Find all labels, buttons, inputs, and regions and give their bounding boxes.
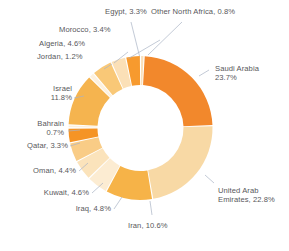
donut-slice-bahrain[interactable]	[69, 125, 98, 127]
slice-label-morocco: Morocco, 3.4%	[59, 25, 111, 34]
slice-label-israel-line1: Israel	[53, 84, 72, 93]
slice-label-israel: Israel 11.8%	[0, 84, 72, 102]
donut-slice-saudi-arabia[interactable]	[143, 56, 212, 126]
slice-label-jordan: Jordan, 1.2%	[37, 52, 83, 61]
slice-label-egypt: Egypt, 3.3%	[105, 7, 147, 16]
leader-line-iraq	[114, 197, 122, 209]
donut-slice-group	[69, 56, 213, 200]
leader-line-other-north-africa	[148, 22, 182, 55]
slice-label-bahrain-line2: 0.7%	[46, 128, 64, 137]
slice-label-israel-line2: 11.8%	[51, 93, 72, 102]
leader-line-uae	[205, 175, 214, 183]
slice-label-saudi-arabia: Saudi Arabia 23.7%	[215, 64, 259, 82]
slice-label-oman: Oman, 4.4%	[0, 166, 76, 175]
donut-slice-israel[interactable]	[69, 78, 110, 126]
leader-line-iran	[150, 201, 152, 215]
leader-line-morocco	[129, 40, 161, 59]
slice-label-other-north-africa: Other North Africa, 0.8%	[151, 7, 235, 16]
chart-container: Egypt, 3.3% Other North Africa, 0.8% Mor…	[0, 0, 289, 251]
slice-label-algeria: Algeria, 4.6%	[39, 39, 85, 48]
slice-label-bahrain: Bahrain 0.7%	[0, 119, 64, 137]
donut-slice-united-arab-emirates[interactable]	[148, 126, 212, 198]
slice-label-bahrain-line1: Bahrain	[37, 119, 64, 128]
slice-label-qatar: Qatar, 3.3%	[0, 141, 68, 150]
slice-label-iran: Iran, 10.6%	[128, 221, 168, 230]
donut-slice-other-north-africa[interactable]	[141, 56, 144, 85]
slice-label-uae-line2: Emirates, 22.8%	[218, 195, 275, 204]
slice-label-saudi-line1: Saudi Arabia	[215, 64, 259, 73]
slice-label-uae: United Arab Emirates, 22.8%	[218, 186, 275, 204]
slice-label-uae-line1: United Arab	[218, 186, 259, 195]
slice-label-kuwait: Kuwait, 4.6%	[0, 188, 89, 197]
leader-line-egypt	[131, 22, 140, 56]
slice-label-saudi-line2: 23.7%	[215, 73, 237, 82]
leader-line-saudi-arabia	[199, 70, 209, 76]
slice-label-iraq: Iraq, 4.8%	[0, 204, 111, 213]
